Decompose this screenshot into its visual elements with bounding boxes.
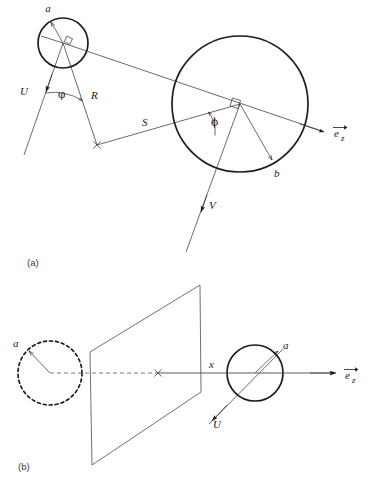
label-axis-ez-b: e z bbox=[344, 367, 358, 385]
vector-bar-arrowhead-a bbox=[344, 125, 347, 129]
label-radius-a-solid: a bbox=[283, 339, 289, 351]
label-radius-b: b bbox=[274, 167, 280, 179]
right-angle-mark-small bbox=[64, 36, 72, 44]
label-radius-a-dashed: a bbox=[13, 337, 19, 349]
label-offset-x: x bbox=[208, 358, 214, 370]
panel-label-b: (b) bbox=[18, 461, 30, 472]
label-angle-phi-big: ϕ bbox=[211, 116, 218, 128]
label-axis-ez-b-sub: z bbox=[351, 375, 356, 385]
label-radius-a-small: a bbox=[45, 2, 51, 14]
label-axis-ez-a-sub: z bbox=[340, 133, 345, 143]
panel-b-group: a a x U e z (b) bbox=[13, 285, 358, 472]
panel-a-group: a U φ R S ϕ b V e z (a) bbox=[20, 2, 347, 268]
u-arrowhead-a bbox=[46, 74, 52, 92]
label-angle-phi-small: φ bbox=[58, 88, 65, 100]
projection-plane bbox=[90, 285, 201, 465]
figure-root: a U φ R S ϕ b V e z (a) bbox=[0, 0, 374, 489]
cross-marker-a bbox=[93, 142, 100, 149]
label-velocity-u-a: U bbox=[20, 85, 29, 97]
vector-bar-arrowhead-b bbox=[355, 367, 358, 371]
label-axis-ez-b-base: e bbox=[345, 369, 350, 381]
label-velocity-u-b: U bbox=[213, 418, 222, 430]
geometry-figure: a U φ R S ϕ b V e z (a) bbox=[0, 0, 374, 489]
label-distance-s: S bbox=[142, 116, 148, 128]
label-distance-r: R bbox=[90, 89, 98, 101]
panel-label-a: (a) bbox=[27, 257, 39, 268]
label-axis-ez-a-base: e bbox=[334, 127, 339, 139]
label-velocity-v-a: V bbox=[209, 199, 217, 211]
v-arrowhead-a bbox=[201, 195, 207, 212]
radius-a-arrow-solid bbox=[255, 351, 278, 373]
radius-a-arrow-dashed bbox=[29, 351, 50, 373]
label-axis-ez-a: e z bbox=[333, 125, 347, 143]
s-line bbox=[97, 104, 240, 145]
